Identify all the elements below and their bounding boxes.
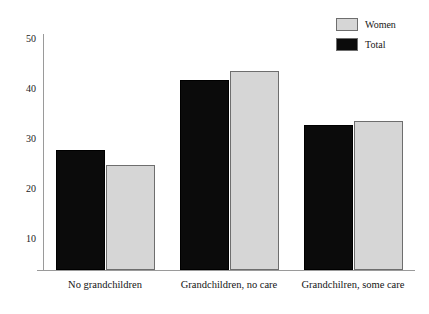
bar-total-grandchildren-some-care [304, 125, 353, 270]
legend-swatch-women [336, 18, 358, 31]
legend-label-women: Women [365, 19, 396, 30]
y-tick-label-40: 40 [26, 83, 36, 94]
plot-area: 50 40 30 20 10 [43, 38, 415, 270]
y-axis-line [43, 34, 44, 270]
x-axis-line [37, 270, 415, 271]
x-category-label-1: Grandchildren, no care [167, 279, 291, 291]
y-tick-label-10: 10 [26, 233, 36, 244]
bar-total-no-grandchildren [56, 150, 105, 270]
bar-women-grandchildren-some-care [354, 121, 403, 271]
bar-women-grandchildren-no-care [230, 71, 279, 271]
bar-total-grandchildren-no-care [180, 80, 229, 270]
y-tick-label-20: 20 [26, 183, 36, 194]
bar-chart-figure: Women Total 50 40 30 20 10 No grandchild… [0, 0, 429, 314]
y-tick-label-50: 50 [26, 33, 36, 44]
y-tick-label-30: 30 [26, 133, 36, 144]
legend-item-women: Women [336, 16, 428, 33]
x-category-label-0: No grandchildren [43, 279, 167, 291]
bar-women-no-grandchildren [106, 165, 155, 270]
x-category-label-2: Grandchilren, some care [291, 279, 415, 291]
